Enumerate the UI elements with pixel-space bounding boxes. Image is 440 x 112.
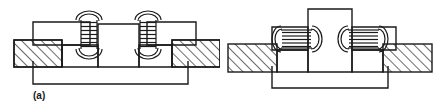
coil-spring-right [338,26,388,52]
spring-right-top-arc-inner [138,14,158,21]
diagram-panel-b: (b) [220,0,440,112]
base-yoke-outline [272,66,388,88]
hatched-block-left-fill [14,40,62,67]
spring-right-turns [140,23,156,47]
spring-right-turns [349,33,378,47]
center-post [308,9,352,72]
spring-left-top-arc-inner [79,14,99,21]
seat-block-right [352,50,383,72]
spring-left-turns [81,23,97,47]
figure-container: (a) [0,0,440,112]
spring-left-bottom-arc-inner [79,48,99,56]
spring-right-end-arc-inner [341,29,349,49]
hatched-block-right-fill [172,40,220,67]
diagram-panel-a: (a) [0,0,220,112]
spring-left-turns [282,33,311,47]
spring-right-bottom-arc-inner [138,48,158,56]
seat-block-left [277,50,308,72]
hatched-block-right-fill [383,44,432,72]
coil-spring-left [272,26,322,52]
panel-b-drawing [220,0,440,112]
center-block [98,24,139,67]
panel-a-caption: (a) [33,90,45,101]
hatched-block-left-fill [228,44,277,72]
spring-right-end-arc-inner [311,29,319,49]
